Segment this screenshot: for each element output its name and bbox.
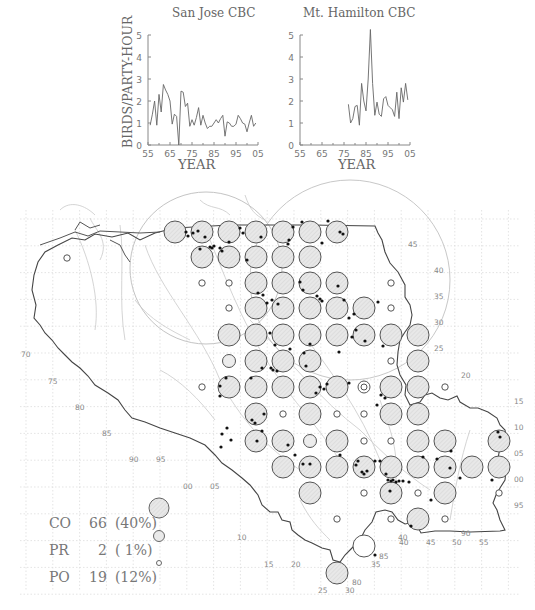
grid-label: 10: [514, 423, 524, 432]
co-circle: [272, 456, 294, 478]
co-circle: [380, 456, 402, 478]
grid-label: 45: [426, 538, 436, 547]
co-circle: [245, 272, 267, 294]
legend-co-symbol-icon: [149, 498, 169, 518]
co-circle: [488, 456, 510, 478]
co-circle: [299, 403, 321, 425]
po-circle: [388, 438, 394, 444]
po-circle: [361, 490, 367, 496]
co-circle: [299, 246, 321, 268]
grid-label: 75: [48, 377, 58, 386]
po-circle: [442, 516, 448, 522]
co-circle: [272, 430, 294, 452]
po-circle: [442, 384, 448, 390]
co-circle: [299, 221, 321, 243]
co-circle: [326, 376, 348, 398]
po-circle: [199, 384, 205, 390]
po-circle: [280, 411, 286, 417]
co-circle: [218, 246, 240, 268]
grid-label: 25: [318, 586, 328, 595]
po-circle: [361, 438, 367, 444]
grid-label: 10: [237, 533, 247, 542]
co-circle: [299, 297, 321, 319]
grid-label: 80: [75, 403, 85, 412]
co-circle: [299, 376, 321, 398]
co-circle: [299, 350, 321, 372]
co-circle: [272, 350, 294, 372]
grid-label: 20: [461, 371, 471, 380]
grid-label: 00: [514, 475, 524, 484]
legend-po-symbol-icon: [157, 561, 162, 566]
po-circle: [388, 305, 394, 311]
co-circle: [218, 324, 240, 346]
co-circle: [272, 324, 294, 346]
grid-label: 05: [514, 449, 524, 458]
co-circle: [218, 376, 240, 398]
grid-label: 40: [398, 533, 408, 542]
grid-label: 35: [434, 292, 444, 301]
grid-label: 30: [434, 318, 444, 327]
grid-label: 90: [461, 529, 471, 538]
co-circle: [245, 297, 267, 319]
po-circle: [388, 516, 394, 522]
grid-label: 45: [408, 240, 418, 249]
po-circle: [334, 411, 340, 417]
po-circle: [361, 411, 367, 417]
grid-label: 15: [264, 560, 274, 569]
grid-label: 15: [514, 397, 524, 406]
co-circle: [380, 403, 402, 425]
grid-label: 35: [371, 560, 381, 569]
grid-label: 55: [479, 538, 489, 547]
co-circle: [353, 324, 375, 346]
pr-circle: [304, 435, 317, 448]
co-circle: [407, 350, 429, 372]
po-circle: [199, 280, 205, 286]
co-circle: [380, 376, 402, 398]
grid-label: 30: [345, 586, 355, 595]
grid-label: 20: [291, 560, 301, 569]
co-circle: [326, 221, 348, 243]
grid-label: 50: [452, 538, 462, 547]
co-circle: [272, 376, 294, 398]
co-circle: [326, 324, 348, 346]
po-circle: [388, 280, 394, 286]
grid-label: 70: [21, 350, 31, 359]
co-circle: [488, 430, 510, 452]
po-circle: [388, 358, 394, 364]
legend-code: PO: [49, 569, 85, 585]
open-circle: [353, 535, 375, 557]
co-circle: [245, 350, 267, 372]
co-circle: [191, 246, 213, 268]
legend-symbols: [140, 495, 180, 585]
po-circle: [415, 490, 421, 496]
grid-label: 00: [183, 482, 193, 491]
co-circle: [272, 221, 294, 243]
co-circle: [272, 297, 294, 319]
co-circle: [164, 221, 186, 243]
co-circle: [326, 430, 348, 452]
grid-label: 95: [156, 455, 166, 464]
grid-label: 40: [434, 266, 444, 275]
po-circle: [334, 516, 340, 522]
co-circle: [326, 456, 348, 478]
grid-label: 25: [434, 344, 444, 353]
co-circle: [191, 221, 213, 243]
co-circle: [434, 430, 456, 452]
co-circle: [299, 482, 321, 504]
po-circle: [64, 255, 70, 261]
co-circle: [407, 430, 429, 452]
co-circle: [245, 221, 267, 243]
co-circle: [461, 456, 483, 478]
legend-count: 19: [85, 569, 107, 585]
pr-circle: [223, 355, 236, 368]
co-circle: [245, 246, 267, 268]
co-circle: [218, 221, 240, 243]
co-circle: [407, 324, 429, 346]
grid-label: 05: [210, 482, 220, 491]
co-circle: [299, 456, 321, 478]
co-circle: [380, 482, 402, 504]
co-circle: [407, 376, 429, 398]
co-circle: [272, 246, 294, 268]
co-circle: [326, 562, 348, 584]
co-circle: [272, 272, 294, 294]
